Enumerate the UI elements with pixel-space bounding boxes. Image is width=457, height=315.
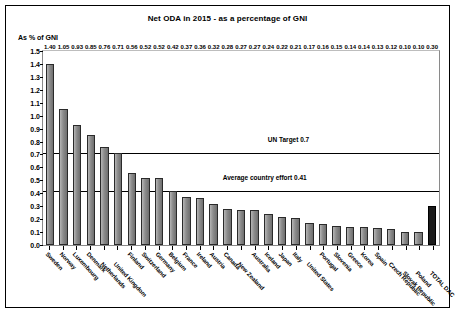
x-axis-tick bbox=[248, 246, 262, 250]
y-axis-tick-label: 0.0 bbox=[30, 242, 40, 249]
bar-item[interactable]: 0.21 bbox=[289, 51, 303, 245]
y-axis-tick-label: 0.7 bbox=[30, 151, 40, 158]
x-axis-label: Luxembourg bbox=[69, 251, 83, 315]
bar-item[interactable]: 0.22 bbox=[275, 51, 289, 245]
chart-title: Net ODA in 2015 - as a percentage of GNI bbox=[6, 14, 449, 23]
x-axis-label: Belgium bbox=[165, 251, 179, 315]
bar-value-label: 0.21 bbox=[290, 44, 302, 50]
y-axis-tick-label: 0.9 bbox=[30, 125, 40, 132]
bar[interactable]: 0.16 bbox=[319, 224, 327, 245]
bar-item[interactable]: 0.32 bbox=[207, 51, 221, 245]
bar[interactable]: 1.40 bbox=[46, 64, 54, 245]
bar-item[interactable]: 0.56 bbox=[125, 51, 139, 245]
bar-item[interactable]: 0.37 bbox=[180, 51, 194, 245]
x-axis-tick bbox=[83, 246, 97, 250]
bar[interactable]: 0.13 bbox=[373, 228, 381, 245]
x-axis-tick bbox=[234, 246, 248, 250]
bar-value-label: 0.85 bbox=[85, 44, 97, 50]
y-axis-tick-label: 1.1 bbox=[30, 99, 40, 106]
bar[interactable]: 0.42 bbox=[169, 191, 177, 245]
x-axis-tick bbox=[275, 246, 289, 250]
bar-value-label: 0.37 bbox=[181, 44, 193, 50]
bar-item[interactable]: 0.85 bbox=[84, 51, 98, 245]
bar-item[interactable]: 0.24 bbox=[262, 51, 276, 245]
y-axis-tick-label: 0.6 bbox=[30, 164, 40, 171]
bar-item[interactable]: 0.71 bbox=[111, 51, 125, 245]
bar[interactable]: 0.17 bbox=[305, 223, 313, 245]
x-axis-label: Slovenia bbox=[330, 251, 344, 315]
bar-value-label: 0.17 bbox=[303, 44, 315, 50]
bar-item[interactable]: 0.13 bbox=[371, 51, 385, 245]
y-axis-tick-label: 0.4 bbox=[30, 190, 40, 197]
bar-item[interactable]: 0.15 bbox=[330, 51, 344, 245]
bar-item[interactable]: 0.27 bbox=[248, 51, 262, 245]
x-axis-label: Czech Republic bbox=[385, 251, 399, 315]
bar-item[interactable]: 0.12 bbox=[384, 51, 398, 245]
bar-item[interactable]: 0.27 bbox=[234, 51, 248, 245]
bar-value-label: 0.27 bbox=[235, 44, 247, 50]
y-axis-tick-label: 0.1 bbox=[30, 229, 40, 236]
bar-item[interactable]: 0.42 bbox=[166, 51, 180, 245]
bar[interactable]: 0.56 bbox=[128, 173, 136, 245]
bar[interactable]: 0.15 bbox=[332, 226, 340, 245]
y-axis-tick-label: 0.3 bbox=[30, 203, 40, 210]
bar[interactable]: 0.10 bbox=[414, 232, 422, 245]
bar[interactable]: 1.05 bbox=[59, 109, 67, 245]
bar-item[interactable]: 0.10 bbox=[412, 51, 426, 245]
x-axis-tick bbox=[97, 246, 111, 250]
bar[interactable]: 0.37 bbox=[182, 197, 190, 245]
bar-item[interactable]: 1.40 bbox=[43, 51, 57, 245]
bar-item[interactable]: 0.30 bbox=[425, 51, 439, 245]
bar-item[interactable]: 0.14 bbox=[343, 51, 357, 245]
bar[interactable]: 0.32 bbox=[209, 204, 217, 245]
bar-item[interactable]: 0.16 bbox=[316, 51, 330, 245]
bar[interactable]: 0.14 bbox=[360, 227, 368, 245]
bar[interactable]: 0.85 bbox=[87, 135, 95, 245]
bar[interactable]: 0.27 bbox=[237, 210, 245, 245]
bar[interactable]: 0.24 bbox=[264, 214, 272, 245]
bar[interactable]: 0.30 bbox=[428, 206, 436, 245]
bar[interactable]: 0.52 bbox=[141, 178, 149, 245]
bar-value-label: 0.30 bbox=[426, 44, 438, 50]
bar-item[interactable]: 0.14 bbox=[357, 51, 371, 245]
y-axis-tick-label: 0.8 bbox=[30, 138, 40, 145]
bar-value-label: 0.52 bbox=[140, 44, 152, 50]
bar[interactable]: 0.21 bbox=[291, 218, 299, 245]
bar-value-label: 0.32 bbox=[208, 44, 220, 50]
x-axis-tick bbox=[385, 246, 399, 250]
bar[interactable]: 0.10 bbox=[401, 232, 409, 245]
bar[interactable]: 0.52 bbox=[155, 178, 163, 245]
bar[interactable]: 0.36 bbox=[196, 198, 204, 245]
x-axis-label: United Kingdom bbox=[111, 251, 125, 315]
bar[interactable]: 0.28 bbox=[223, 209, 231, 245]
bar-item[interactable]: 0.76 bbox=[98, 51, 112, 245]
x-axis-tick bbox=[426, 246, 440, 250]
bar[interactable]: 0.76 bbox=[100, 147, 108, 245]
bar-value-label: 0.27 bbox=[249, 44, 261, 50]
x-axis-tick bbox=[262, 246, 276, 250]
y-axis-tick-label: 1.5 bbox=[30, 48, 40, 55]
x-axis-tick bbox=[193, 246, 207, 250]
x-axis-label: Canada bbox=[220, 251, 234, 315]
bar-value-label: 0.93 bbox=[71, 44, 83, 50]
bar-item[interactable]: 0.52 bbox=[152, 51, 166, 245]
y-axis-tick-label: 1.4 bbox=[30, 60, 40, 67]
bar[interactable]: 0.12 bbox=[387, 229, 395, 245]
bar[interactable]: 0.22 bbox=[278, 217, 286, 245]
bar-value-label: 0.28 bbox=[222, 44, 234, 50]
bar[interactable]: 0.71 bbox=[114, 153, 122, 245]
bar-value-label: 0.13 bbox=[372, 44, 384, 50]
bar[interactable]: 0.93 bbox=[73, 125, 81, 245]
bar-item[interactable]: 1.05 bbox=[57, 51, 71, 245]
bar-item[interactable]: 0.28 bbox=[221, 51, 235, 245]
bar-value-label: 0.24 bbox=[262, 44, 274, 50]
x-axis-tick bbox=[303, 246, 317, 250]
bar-item[interactable]: 0.36 bbox=[193, 51, 207, 245]
bar-item[interactable]: 0.93 bbox=[70, 51, 84, 245]
bar-item[interactable]: 0.52 bbox=[139, 51, 153, 245]
bar[interactable]: 0.27 bbox=[250, 210, 258, 245]
x-axis-tick bbox=[412, 246, 426, 250]
bar-item[interactable]: 0.17 bbox=[302, 51, 316, 245]
bar[interactable]: 0.14 bbox=[346, 227, 354, 245]
bar-item[interactable]: 0.10 bbox=[398, 51, 412, 245]
